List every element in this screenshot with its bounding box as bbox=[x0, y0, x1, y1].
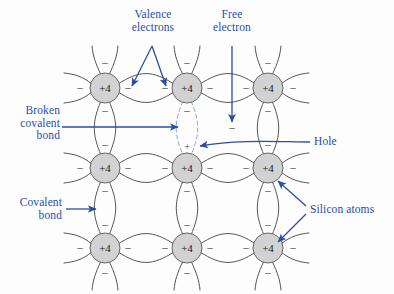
electron-mark: – bbox=[289, 161, 296, 173]
silicon-atoms-arrow-lower bbox=[278, 214, 306, 242]
atom-core-label: +4 bbox=[262, 242, 274, 254]
electron-mark: – bbox=[183, 56, 190, 68]
electron-mark: – bbox=[264, 218, 271, 230]
hole-arrow bbox=[200, 141, 310, 146]
atom-core-label: +4 bbox=[181, 162, 193, 174]
atom-core-label: +4 bbox=[99, 242, 111, 254]
electron-mark: – bbox=[264, 266, 271, 278]
electron-mark: – bbox=[242, 241, 249, 253]
atom-core-label: +4 bbox=[99, 82, 111, 94]
electron-mark: – bbox=[101, 184, 108, 196]
electron-mark: – bbox=[289, 241, 296, 253]
electron-mark: – bbox=[161, 241, 168, 253]
silicon-lattice-diagram: +4 +4 +4 +4 +4 +4 +4 +4 +4 – – – – – – –… bbox=[0, 0, 394, 294]
electron-mark: – bbox=[289, 81, 296, 93]
electron-mark: – bbox=[76, 81, 83, 93]
valence-electrons-arrow-right bbox=[152, 46, 166, 86]
electron-mark: – bbox=[242, 81, 249, 93]
label-broken-covalent-bond: Broken covalent bond bbox=[4, 104, 60, 142]
atom-core-label: +4 bbox=[262, 82, 274, 94]
label-hole: Hole bbox=[314, 135, 362, 148]
atom-core-label: +4 bbox=[181, 82, 193, 94]
silicon-atoms-group: +4 +4 +4 +4 +4 +4 +4 +4 +4 bbox=[90, 73, 283, 263]
electron-mark: – bbox=[206, 161, 213, 173]
electron-mark: – bbox=[101, 266, 108, 278]
electron-mark: – bbox=[183, 104, 190, 116]
atom-core-label: +4 bbox=[181, 242, 193, 254]
electron-mark: – bbox=[264, 138, 271, 150]
valence-electrons-arrow-left bbox=[132, 46, 152, 86]
atom-core-label: +4 bbox=[99, 162, 111, 174]
label-free-electron: Free electron bbox=[196, 8, 268, 33]
silicon-atoms-arrow-upper bbox=[278, 181, 306, 206]
electron-mark: – bbox=[183, 218, 190, 230]
electron-mark: – bbox=[76, 161, 83, 173]
atom-core-label: +4 bbox=[262, 162, 274, 174]
electron-mark: – bbox=[183, 184, 190, 196]
electron-mark: – bbox=[264, 104, 271, 116]
electron-mark: – bbox=[161, 161, 168, 173]
electron-mark: – bbox=[264, 56, 271, 68]
electron-mark: – bbox=[124, 81, 131, 93]
electron-mark: – bbox=[124, 241, 131, 253]
label-valence-electrons: Valence electrons bbox=[108, 8, 198, 33]
label-covalent-bond: Covalent bond bbox=[4, 196, 62, 221]
electron-mark: – bbox=[206, 81, 213, 93]
electron-mark: – bbox=[264, 184, 271, 196]
electron-mark: – bbox=[206, 241, 213, 253]
electron-mark: – bbox=[101, 218, 108, 230]
electron-mark: – bbox=[101, 138, 108, 150]
electron-mark: – bbox=[242, 161, 249, 173]
electron-mark: – bbox=[101, 56, 108, 68]
label-silicon-atoms: Silicon atoms bbox=[310, 203, 394, 216]
hole-mark: + bbox=[184, 140, 190, 152]
free-electron-mark: – bbox=[228, 121, 235, 133]
electron-mark: – bbox=[101, 104, 108, 116]
electron-mark: – bbox=[76, 241, 83, 253]
electron-mark: – bbox=[183, 266, 190, 278]
electron-mark: – bbox=[124, 161, 131, 173]
